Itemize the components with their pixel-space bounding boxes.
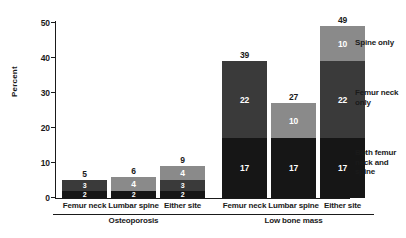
bar-low-bone-mass-lumbar-spine: 101727 [271,103,316,198]
y-tick-mark [51,57,56,58]
y-tick-mark [51,127,56,128]
legend-item-femur-neck-only: Femur neck only [355,88,398,107]
bar-segment: 2 [111,191,156,198]
bar-total-label: 27 [271,92,316,102]
y-tick-mark [51,22,56,23]
bar-low-bone-mass-femur-neck: 221739 [222,61,267,198]
group-rule [213,214,374,215]
bar-osteoporosis-lumbar-spine: 426 [111,177,156,198]
legend-item-both-femur-neck-and-spine: Both femur neck and spine [355,148,396,177]
bar-segment: 3 [62,180,107,191]
x-axis-category-label: Either site [311,201,374,210]
bar-total-label: 49 [320,15,365,25]
y-tick-mark [51,162,56,163]
y-tick-mark [51,92,56,93]
bar-segment: 4 [111,177,156,191]
y-tick-label: 20 [28,123,50,133]
y-tick-label: 10 [28,158,50,168]
y-tick-label: 0 [28,193,50,203]
y-axis-title: Percent [10,66,19,97]
x-axis-line [55,198,350,199]
group-rule [53,214,214,215]
bar-segment: 17 [271,138,316,198]
legend-item-spine-only: Spine only [355,38,394,48]
y-tick-label: 50 [28,18,50,28]
bar-segment: 3 [160,180,205,191]
bar-total-label: 6 [111,166,156,176]
bar-segment: 4 [160,166,205,180]
bar-segment: 22 [222,61,267,138]
bar-segment: 2 [62,191,107,198]
group-label: Osteoporosis [53,216,214,225]
y-tick-label: 30 [28,88,50,98]
bar-osteoporosis-either-site: 4329 [160,166,205,198]
bar-chart: Percent 50403020100 32542643292217391017… [0,0,406,238]
bar-osteoporosis-femur-neck: 325 [62,180,107,198]
bar-total-label: 9 [160,155,205,165]
bar-segment: 2 [160,191,205,198]
x-axis-category-label: Either site [151,201,214,210]
group-label: Low bone mass [213,216,374,225]
y-tick-mark [51,197,56,198]
bar-segment: 10 [271,103,316,138]
y-tick-label: 40 [28,53,50,63]
bar-segment: 17 [222,138,267,198]
bar-total-label: 39 [222,50,267,60]
y-axis-line [55,21,56,199]
bar-total-label: 5 [62,169,107,179]
